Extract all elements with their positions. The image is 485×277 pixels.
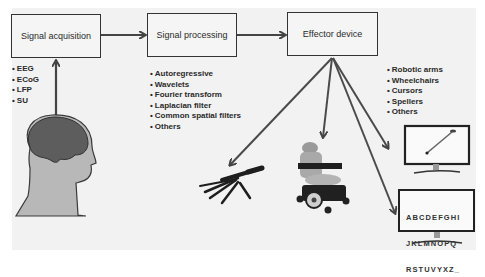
wheelchair-icon — [297, 142, 350, 214]
speller-row: RSTUVYXZ_ — [406, 266, 460, 275]
speller-row: ABCDEFGHI — [406, 214, 460, 223]
speller-monitor-icon: ABCDEFGHI JKLMNOPQ RSTUVYXZ_ — [398, 189, 475, 232]
human-head-icon — [16, 115, 96, 216]
arrow-effector-to-cursor-monitor — [333, 58, 388, 148]
arrow-effector-to-wheelchair — [323, 58, 332, 137]
speller-row: JKLMNOPQ — [406, 240, 460, 249]
robotic-hand-icon — [200, 168, 262, 203]
cursor-monitor-icon — [405, 126, 469, 173]
speller-grid: ABCDEFGHI JKLMNOPQ RSTUVYXZ_ — [406, 197, 460, 277]
